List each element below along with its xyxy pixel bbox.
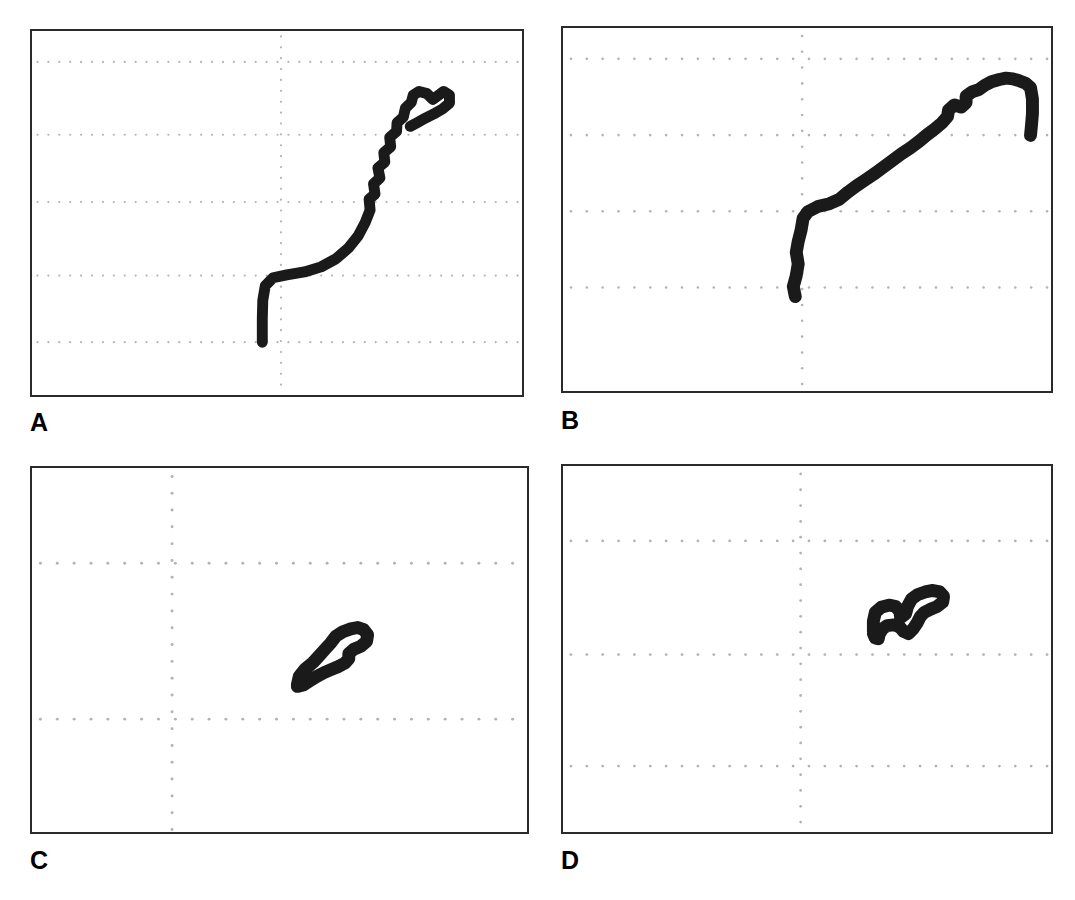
- plot-svg-c: [32, 468, 527, 832]
- data-trace: [873, 590, 943, 638]
- gridline-horizontal: [570, 653, 1049, 656]
- gridline-horizontal: [36, 341, 518, 343]
- gridline-horizontal: [39, 562, 514, 565]
- gridline-vertical: [799, 473, 802, 824]
- plot-area-c: [30, 466, 529, 834]
- panel-label-a: A: [30, 410, 48, 435]
- gridline-horizontal: [570, 134, 1049, 137]
- panel-a: [30, 29, 524, 397]
- plot-svg-a: [32, 31, 522, 395]
- gridline-horizontal: [36, 201, 518, 203]
- gridline-horizontal: [570, 286, 1049, 289]
- plot-area-a: [30, 29, 524, 397]
- gridline-horizontal: [36, 61, 518, 63]
- grid-c: [39, 475, 514, 831]
- gridline-horizontal: [36, 134, 518, 136]
- panel-label-c: C: [30, 848, 48, 873]
- panel-d: [561, 464, 1053, 834]
- data-trace: [262, 91, 449, 342]
- plot-area-d: [561, 464, 1053, 834]
- gridline-horizontal: [570, 765, 1049, 768]
- plot-svg-d: [563, 466, 1051, 832]
- grid-d: [570, 473, 1049, 824]
- gridline-horizontal: [570, 58, 1049, 61]
- panel-c: [30, 466, 529, 834]
- panel-b: [561, 26, 1053, 393]
- gridline-vertical: [280, 35, 282, 385]
- gridline-horizontal: [39, 718, 514, 721]
- data-trace: [793, 78, 1032, 297]
- data-trace: [297, 627, 367, 686]
- panel-label-d: D: [561, 848, 579, 873]
- plot-area-b: [561, 26, 1053, 393]
- figure-container: ABCD: [0, 0, 1075, 900]
- panel-label-b: B: [561, 408, 579, 433]
- gridline-vertical: [171, 475, 174, 831]
- gridline-horizontal: [570, 540, 1049, 543]
- plot-svg-b: [563, 28, 1051, 391]
